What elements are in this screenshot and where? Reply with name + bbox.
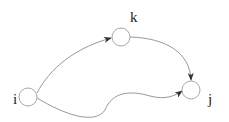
node-i[interactable] [19, 88, 37, 106]
node-label-j: j [207, 91, 212, 107]
node-label-k: k [130, 9, 138, 25]
node-k[interactable] [112, 28, 130, 46]
node-label-i: i [13, 91, 17, 107]
graph-canvas: i k j [0, 0, 229, 122]
node-j[interactable] [182, 81, 200, 99]
edge-i-to-j [37, 91, 182, 117]
edge-k-to-j [130, 37, 191, 80]
edge-i-to-k [37, 38, 111, 93]
